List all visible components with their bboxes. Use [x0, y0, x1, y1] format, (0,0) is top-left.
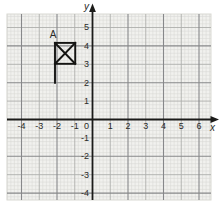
y-tick-label--4: -4: [81, 188, 89, 198]
x-tick-label-4: 4: [161, 121, 166, 131]
y-tick-label-3: 3: [84, 59, 89, 69]
x-tick-label--2: -2: [53, 121, 61, 131]
x-tick-label-6: 6: [196, 121, 201, 131]
y-tick-label-2: 2: [84, 78, 89, 88]
origin-label: 0: [84, 121, 89, 131]
graph-paper-background: [7, 14, 211, 200]
y-tick-label-4: 4: [84, 41, 89, 51]
y-axis-arrowhead: [89, 4, 96, 13]
x-axis-letter: x: [209, 122, 216, 133]
y-tick-label--2: -2: [81, 151, 89, 161]
x-tick-label--3: -3: [35, 121, 43, 131]
x-tick-label--4: -4: [17, 121, 25, 131]
x-tick-label--1: -1: [71, 121, 79, 131]
y-tick-label-5: 5: [84, 22, 89, 32]
x-tick-label-5: 5: [179, 121, 184, 131]
y-tick-label--3: -3: [81, 170, 89, 180]
y-tick-label--1: -1: [81, 133, 89, 143]
coordinate-plane: xy-4-3-2-112345654321-1-2-3-40A: [0, 0, 224, 206]
y-tick-label-1: 1: [84, 96, 89, 106]
x-tick-label-2: 2: [125, 121, 130, 131]
graph-figure: xy-4-3-2-112345654321-1-2-3-40A: [0, 0, 224, 206]
y-axis-letter: y: [83, 1, 90, 12]
x-tick-label-1: 1: [108, 121, 113, 131]
x-tick-label-3: 3: [143, 121, 148, 131]
point-label-a: A: [50, 29, 57, 40]
